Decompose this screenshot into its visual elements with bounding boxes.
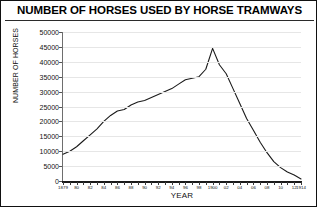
y-axis-tick-label: 35000	[40, 73, 59, 80]
x-axis-tick-label: 96	[183, 185, 188, 190]
gridline	[63, 121, 301, 122]
x-axis-line	[62, 181, 302, 183]
y-axis-tick-mark	[59, 32, 62, 33]
x-axis-tick-label: 1879	[58, 185, 68, 190]
y-axis-tick-label: 40000	[40, 58, 59, 65]
x-axis-tick-label: 94	[169, 185, 174, 190]
x-axis-tick-mark	[179, 182, 180, 185]
x-axis-tick-label: 80	[74, 185, 79, 190]
y-axis-tick-mark	[59, 77, 62, 78]
x-axis-tick-mark	[219, 182, 220, 185]
x-axis-tick-mark	[138, 182, 139, 185]
x-axis-tick-mark	[206, 182, 207, 185]
y-axis-tick-label: 30000	[40, 88, 59, 95]
gridline	[63, 47, 301, 48]
y-axis-tick-label: 5000	[43, 163, 59, 170]
y-axis-tick-label: 10000	[40, 148, 59, 155]
x-axis-tick-label: 84	[101, 185, 106, 190]
x-axis-tick-label: 88	[129, 185, 134, 190]
gridline	[63, 136, 301, 137]
y-axis-tick-mark	[59, 181, 62, 182]
gridline	[63, 77, 301, 78]
x-axis-tick-mark	[247, 182, 248, 185]
gridline	[63, 151, 301, 152]
chart-figure: NUMBER OF HORSES USED BY HORSE TRAMWAYS …	[0, 0, 317, 207]
y-axis-tick-label: 20000	[40, 118, 59, 125]
x-axis-tick-label: 90	[142, 185, 147, 190]
y-axis-tick-label: 25000	[40, 103, 59, 110]
x-axis-tick-mark	[83, 182, 84, 185]
y-axis-tick-mark	[59, 62, 62, 63]
x-axis-tick-label: 1900	[208, 185, 218, 190]
x-axis-tick-mark	[165, 182, 166, 185]
x-axis-tick-label: 1914	[296, 185, 306, 190]
x-axis-tick-mark	[274, 182, 275, 185]
gridline	[63, 107, 301, 108]
y-axis-tick-mark	[59, 92, 62, 93]
x-axis-tick-mark	[233, 182, 234, 185]
plot-area	[63, 32, 301, 181]
y-axis-tick-mark	[59, 151, 62, 152]
x-axis-tick-mark	[151, 182, 152, 185]
y-axis-tick-labels: 0500010000150002000025000300003500040000…	[1, 1, 59, 207]
x-axis-tick-mark	[260, 182, 261, 185]
x-axis-tick-label: 06	[251, 185, 256, 190]
y-axis-tick-label: 50000	[40, 29, 59, 36]
gridline	[63, 32, 301, 33]
x-axis-tick-label: 08	[265, 185, 270, 190]
x-axis-tick-label: 98	[197, 185, 202, 190]
y-axis-tick-mark	[59, 136, 62, 137]
x-axis-tick-mark	[124, 182, 125, 185]
x-axis-tick-mark	[287, 182, 288, 185]
y-axis-tick-mark	[59, 47, 62, 48]
y-axis-tick-label: 45000	[40, 43, 59, 50]
x-axis-tick-label: 86	[115, 185, 120, 190]
gridline	[63, 166, 301, 167]
y-axis-title: NUMBER OF HORSES	[12, 21, 19, 111]
y-axis-tick-mark	[59, 107, 62, 108]
x-axis-tick-label: 04	[237, 185, 242, 190]
x-axis-tick-mark	[97, 182, 98, 185]
gridline	[63, 62, 301, 63]
gridline	[63, 92, 301, 93]
x-axis-tick-label: 92	[156, 185, 161, 190]
y-axis-tick-label: 15000	[40, 133, 59, 140]
x-axis-title: YEAR	[63, 191, 301, 200]
x-axis-tick-mark	[70, 182, 71, 185]
x-axis-tick-label: 02	[224, 185, 229, 190]
x-axis-tick-label: 10	[278, 185, 283, 190]
y-axis-tick-mark	[59, 121, 62, 122]
x-axis-tick-mark	[192, 182, 193, 185]
y-axis-tick-mark	[59, 166, 62, 167]
x-axis-tick-label: 82	[88, 185, 93, 190]
x-axis-tick-mark	[111, 182, 112, 185]
